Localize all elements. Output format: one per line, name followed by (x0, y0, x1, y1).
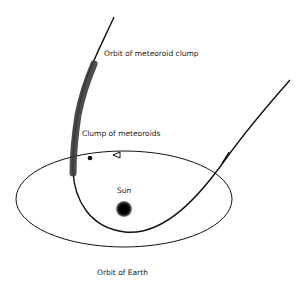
sun-core (119, 204, 130, 215)
label-meteoroid-orbit: Orbit of meteoroid clump (104, 49, 199, 58)
label-clump: Clump of meteoroids (82, 129, 161, 138)
earth-dot (88, 156, 93, 161)
meteoroid-direction-arrow-icon (222, 152, 229, 163)
earth-direction-arrow-icon (113, 152, 120, 158)
meteoroid-orbit-diagram: Orbit of meteoroid clump Clump of meteor… (0, 0, 298, 287)
label-earth-orbit: Orbit of Earth (97, 268, 148, 277)
earth-orbit (16, 151, 232, 247)
label-sun: Sun (117, 186, 132, 195)
